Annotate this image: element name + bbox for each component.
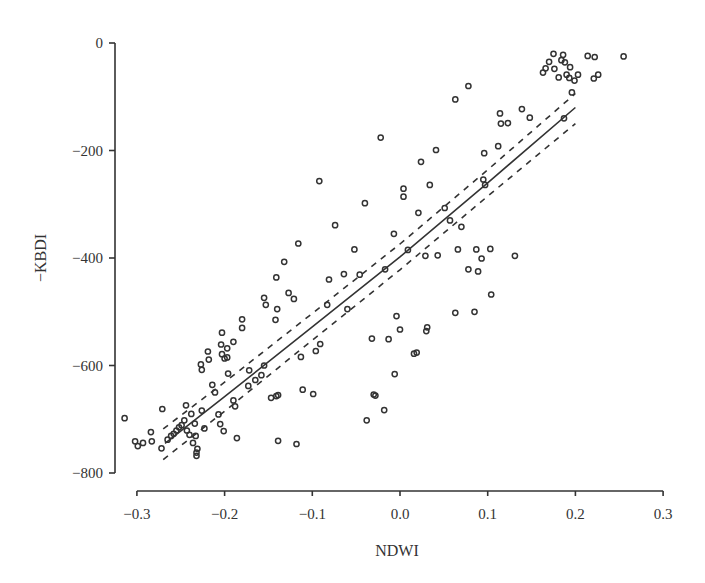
y-tick-label: −600	[72, 358, 103, 374]
regression-fit-line	[165, 108, 575, 444]
data-point-marker	[246, 383, 251, 388]
data-point-marker	[391, 231, 396, 236]
y-axis: 0−200−400−600−800	[72, 35, 115, 481]
data-point-marker	[585, 53, 590, 58]
data-point-marker	[149, 439, 154, 444]
data-point-marker	[198, 362, 203, 367]
data-point-marker	[481, 177, 486, 182]
data-point-marker	[231, 398, 236, 403]
data-point-marker	[300, 387, 305, 392]
data-point-marker	[497, 111, 502, 116]
x-tick-label: −0.2	[211, 506, 238, 522]
data-point-marker	[453, 310, 458, 315]
data-point-marker	[341, 272, 346, 277]
data-point-marker	[561, 52, 566, 57]
data-point-marker	[575, 72, 580, 77]
data-point-marker	[382, 408, 387, 413]
data-point-marker	[551, 51, 556, 56]
data-point-marker	[259, 373, 264, 378]
data-point-marker	[226, 371, 231, 376]
x-tick-label: −0.3	[123, 506, 150, 522]
data-point-marker	[262, 295, 267, 300]
data-point-marker	[418, 159, 423, 164]
y-axis-title: −KBDI	[32, 234, 49, 282]
data-point-marker	[233, 404, 238, 409]
data-point-marker	[218, 422, 223, 427]
data-point-marker	[394, 314, 399, 319]
data-point-marker	[269, 395, 274, 400]
data-point-marker	[240, 317, 245, 322]
data-point-marker	[552, 66, 557, 71]
y-tick-label: −400	[72, 250, 103, 266]
data-point-marker	[527, 115, 532, 120]
data-point-marker	[401, 186, 406, 191]
data-point-marker	[386, 337, 391, 342]
data-point-marker	[378, 135, 383, 140]
data-point-marker	[231, 339, 236, 344]
data-point-marker	[364, 418, 369, 423]
x-tick-label: 0.0	[391, 506, 410, 522]
data-point-marker	[543, 66, 548, 71]
data-point-marker	[276, 438, 281, 443]
data-point-marker	[472, 309, 477, 314]
data-point-marker	[621, 54, 626, 59]
lower-confidence-band	[163, 124, 575, 460]
data-point-marker	[225, 346, 230, 351]
data-point-marker	[313, 348, 318, 353]
data-point-marker	[221, 429, 226, 434]
y-tick-label: −200	[72, 143, 103, 159]
data-point-marker	[183, 403, 188, 408]
data-point-marker	[488, 246, 493, 251]
data-point-marker	[311, 391, 316, 396]
data-point-marker	[476, 269, 481, 274]
data-point-marker	[482, 151, 487, 156]
y-tick-label: 0	[96, 35, 104, 51]
data-point-marker	[433, 147, 438, 152]
data-point-marker	[192, 421, 197, 426]
data-point-marker	[401, 194, 406, 199]
data-point-marker	[253, 377, 258, 382]
data-point-marker	[479, 256, 484, 261]
data-point-marker	[397, 327, 402, 332]
data-point-marker	[210, 382, 215, 387]
data-point-marker	[199, 367, 204, 372]
data-point-marker	[596, 72, 601, 77]
data-point-marker	[466, 267, 471, 272]
x-tick-label: 0.3	[654, 506, 673, 522]
data-point-marker	[416, 210, 421, 215]
confidence-bands	[163, 94, 575, 460]
x-tick-label: 0.2	[566, 506, 585, 522]
data-point-marker	[122, 416, 127, 421]
data-point-marker	[362, 201, 367, 206]
data-point-marker	[219, 330, 224, 335]
data-point-marker	[247, 368, 252, 373]
data-point-marker	[569, 90, 574, 95]
regression-line	[165, 108, 575, 444]
data-point-marker	[263, 302, 268, 307]
data-point-marker	[187, 432, 192, 437]
x-axis-title: NDWI	[375, 542, 419, 559]
data-point-marker	[206, 357, 211, 362]
data-point-marker	[325, 302, 330, 307]
x-axis: −0.3−0.2−0.10.00.10.20.3	[123, 491, 672, 522]
data-point-marker	[205, 349, 210, 354]
data-point-marker	[357, 272, 362, 277]
data-point-marker	[140, 440, 145, 445]
data-point-marker	[135, 444, 140, 449]
data-point-marker	[512, 253, 517, 258]
data-point-marker	[423, 253, 428, 258]
data-point-marker	[274, 275, 279, 280]
data-point-marker	[296, 241, 301, 246]
data-point-marker	[592, 54, 597, 59]
data-point-marker	[459, 224, 464, 229]
data-point-marker	[442, 205, 447, 210]
x-tick-label: 0.1	[478, 506, 497, 522]
data-point-marker	[190, 440, 195, 445]
data-point-marker	[474, 247, 479, 252]
data-point-marker	[286, 290, 291, 295]
data-point-marker	[282, 259, 287, 264]
data-point-marker	[275, 307, 280, 312]
data-point-marker	[159, 446, 164, 451]
data-point-marker	[212, 390, 217, 395]
data-point-marker	[234, 436, 239, 441]
